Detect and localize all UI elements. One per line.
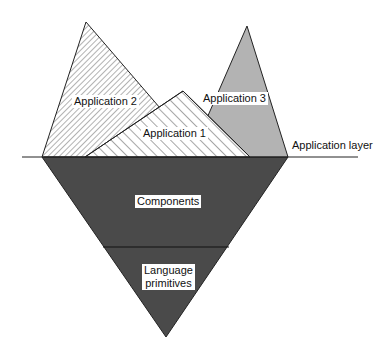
application-layer-label: Application layer bbox=[292, 139, 373, 152]
application-2-label: Application 2 bbox=[72, 95, 139, 108]
language-primitives-label: Language primitives bbox=[142, 264, 195, 290]
primitives-line-2: primitives bbox=[144, 277, 193, 290]
components-label: Components bbox=[135, 195, 201, 208]
iceberg-diagram: Application 2 Application 1 Application … bbox=[0, 0, 390, 352]
application-3-label: Application 3 bbox=[201, 92, 268, 105]
diagram-shapes bbox=[0, 0, 390, 352]
primitives-line-1: Language bbox=[144, 264, 193, 277]
application-1-label: Application 1 bbox=[141, 127, 208, 140]
